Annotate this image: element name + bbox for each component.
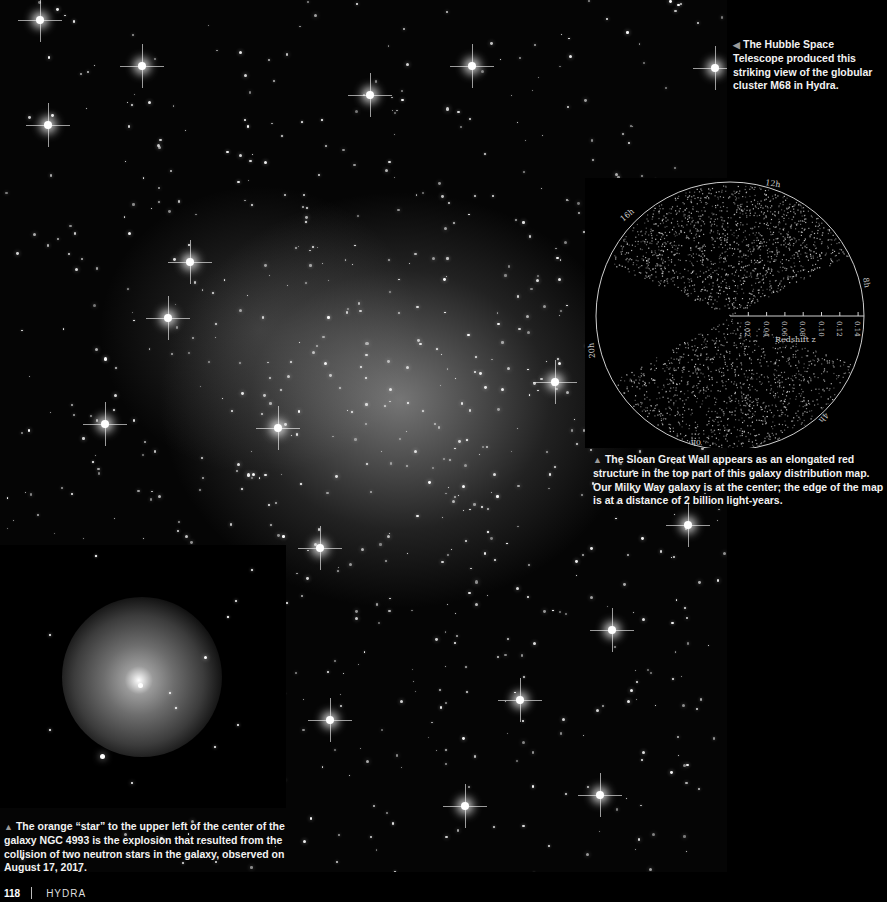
galaxy-caption: ▲The orange “star” to the upper left of … bbox=[4, 820, 289, 875]
sdss-caption: ▲The Sloan Great Wall appears as an elon… bbox=[593, 453, 885, 508]
galaxy-distribution-chart: 0.020.040.060.080.100.120.14 Redshift z … bbox=[585, 178, 887, 448]
galaxy-dots bbox=[614, 186, 851, 449]
svg-text:0.04: 0.04 bbox=[762, 321, 770, 337]
redshift-axis-label: Redshift z bbox=[775, 335, 816, 344]
hubble-caption: ◀The Hubble Space Telescope produced thi… bbox=[733, 38, 883, 93]
svg-text:0.14: 0.14 bbox=[853, 321, 861, 337]
svg-text:0.02: 0.02 bbox=[743, 321, 751, 337]
galaxy-glow bbox=[62, 597, 222, 757]
chapter-title: HYDRA bbox=[46, 888, 86, 899]
ngc4993-galaxy-photo bbox=[0, 545, 286, 808]
galaxy-caption-text: The orange “star” to the upper left of t… bbox=[4, 820, 285, 873]
up-triangle-icon: ▲ bbox=[593, 455, 602, 465]
svg-text:0.10: 0.10 bbox=[817, 321, 825, 337]
hubble-caption-text: The Hubble Space Telescope produced this… bbox=[733, 38, 872, 91]
hour-label-8h: 8h bbox=[861, 277, 872, 289]
up-triangle-icon: ▲ bbox=[4, 822, 13, 832]
page-footer: 118 HYDRA bbox=[4, 887, 86, 899]
hour-label-4h: 4h bbox=[817, 411, 830, 425]
page-number: 118 bbox=[4, 888, 20, 899]
sdss-caption-text: The Sloan Great Wall appears as an elong… bbox=[593, 453, 883, 506]
hour-label-0h: 0h bbox=[691, 438, 701, 447]
svg-text:0.12: 0.12 bbox=[835, 321, 843, 337]
hour-label-16h: 16h bbox=[619, 207, 637, 224]
footer-divider bbox=[31, 887, 32, 899]
hour-label-20h: 20h bbox=[587, 343, 597, 359]
left-triangle-icon: ◀ bbox=[733, 40, 740, 50]
sdss-galaxy-map: 0.020.040.060.080.100.120.14 Redshift z … bbox=[585, 178, 887, 448]
